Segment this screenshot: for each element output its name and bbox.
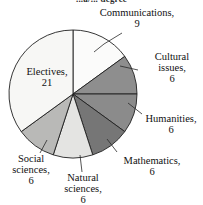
label-electives-name: Electives, (16, 66, 78, 77)
label-natural-sciences-name-line2: sciences, (54, 183, 112, 194)
label-social-sciences-name-line2: sciences, (2, 164, 60, 175)
label-electives-value: 21 (16, 77, 78, 88)
label-natural-sciences: Natural sciences, 6 (54, 172, 112, 205)
label-mathematics: Mathematics, 6 (118, 155, 186, 177)
label-communications-name: Communications, (84, 7, 190, 18)
label-cultural-issues: Cultural issues, 6 (143, 51, 201, 84)
label-natural-sciences-name-line1: Natural (54, 172, 112, 183)
label-social-sciences-value: 6 (2, 175, 60, 186)
pie-slices-group (9, 30, 137, 158)
label-humanities-value: 6 (140, 124, 202, 135)
label-electives: Electives, 21 (16, 66, 78, 88)
label-natural-sciences-value: 6 (54, 194, 112, 205)
label-social-sciences: Social sciences, 6 (2, 153, 60, 186)
pie-chart-figure: ...a/... degree Communications, 9 Cultur… (0, 0, 203, 205)
label-mathematics-name: Mathematics, (118, 155, 186, 166)
label-mathematics-value: 6 (118, 166, 186, 177)
label-communications: Communications, 9 (84, 7, 190, 29)
label-cultural-issues-name-line1: Cultural (143, 51, 201, 62)
label-humanities: Humanities, 6 (140, 113, 202, 135)
label-humanities-name: Humanities, (140, 113, 202, 124)
label-cultural-issues-name-line2: issues, (143, 62, 201, 73)
label-social-sciences-name-line1: Social (2, 153, 60, 164)
label-communications-value: 9 (84, 18, 190, 29)
label-cultural-issues-value: 6 (143, 73, 201, 84)
